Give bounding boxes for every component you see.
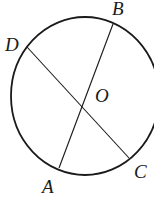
label-a: A bbox=[40, 176, 54, 197]
chord-dc bbox=[27, 47, 129, 158]
circle-o bbox=[11, 17, 154, 175]
label-b: B bbox=[112, 0, 124, 19]
label-o: O bbox=[95, 85, 109, 106]
circle-diagram: A B C D O bbox=[0, 0, 154, 202]
label-c: C bbox=[134, 161, 147, 182]
label-d: D bbox=[4, 34, 19, 55]
